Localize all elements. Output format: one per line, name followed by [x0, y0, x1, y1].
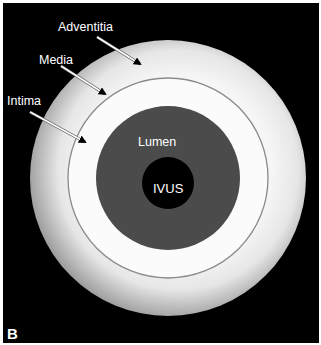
ivus-label: IVUS [153, 181, 184, 196]
intima-label: Intima [7, 94, 41, 108]
lumen-label: Lumen [138, 135, 176, 149]
media-label: Media [39, 53, 73, 67]
panel-label: B [7, 325, 18, 342]
vessel-cross-section-diagram: Adventitia Media Intima Lumen IVUS B [0, 0, 321, 345]
adventitia-label: Adventitia [58, 20, 113, 34]
